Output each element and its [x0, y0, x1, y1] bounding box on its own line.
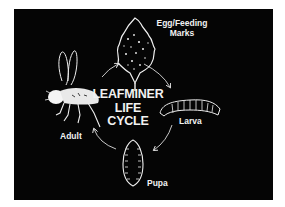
egg-label-line1: Egg/Feeding [151, 19, 213, 28]
title-line-1: LEAFMINER [78, 88, 178, 102]
title-line-2: LIFE [78, 102, 178, 116]
egg-label-line2: Marks [151, 29, 213, 38]
stage-label-pupa: Pupa [147, 179, 168, 188]
stage-label-egg: Egg/Feeding Marks [151, 19, 213, 37]
diagram-title: LEAFMINER LIFE CYCLE [78, 88, 178, 129]
arrow-pupa-to-adult [94, 129, 116, 149]
stage-label-larva: Larva [179, 117, 202, 126]
title-line-3: CYCLE [78, 115, 178, 129]
leaf-icon [117, 18, 155, 91]
life-cycle-diagram: Egg/Feeding Marks LEAFMINER LIFE CYCLE L… [14, 9, 273, 200]
stage-label-adult: Adult [60, 132, 82, 141]
arrow-larva-to-pupa [154, 125, 172, 150]
pupa-icon [123, 140, 143, 186]
arrow-adult-to-egg [102, 64, 118, 77]
